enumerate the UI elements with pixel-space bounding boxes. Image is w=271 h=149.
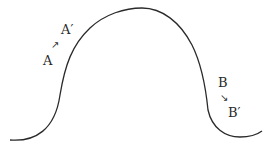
arrow-b-to-b-prime: ↘: [220, 92, 228, 103]
label-b-prime: B′: [228, 105, 241, 120]
hill-curve-diagram: A′ ↗ A B ↘ B′: [0, 0, 271, 149]
label-a-prime: A′: [60, 22, 73, 37]
arrow-a-to-a-prime: ↗: [51, 39, 59, 50]
label-b: B: [218, 75, 228, 90]
label-a: A: [42, 53, 53, 68]
